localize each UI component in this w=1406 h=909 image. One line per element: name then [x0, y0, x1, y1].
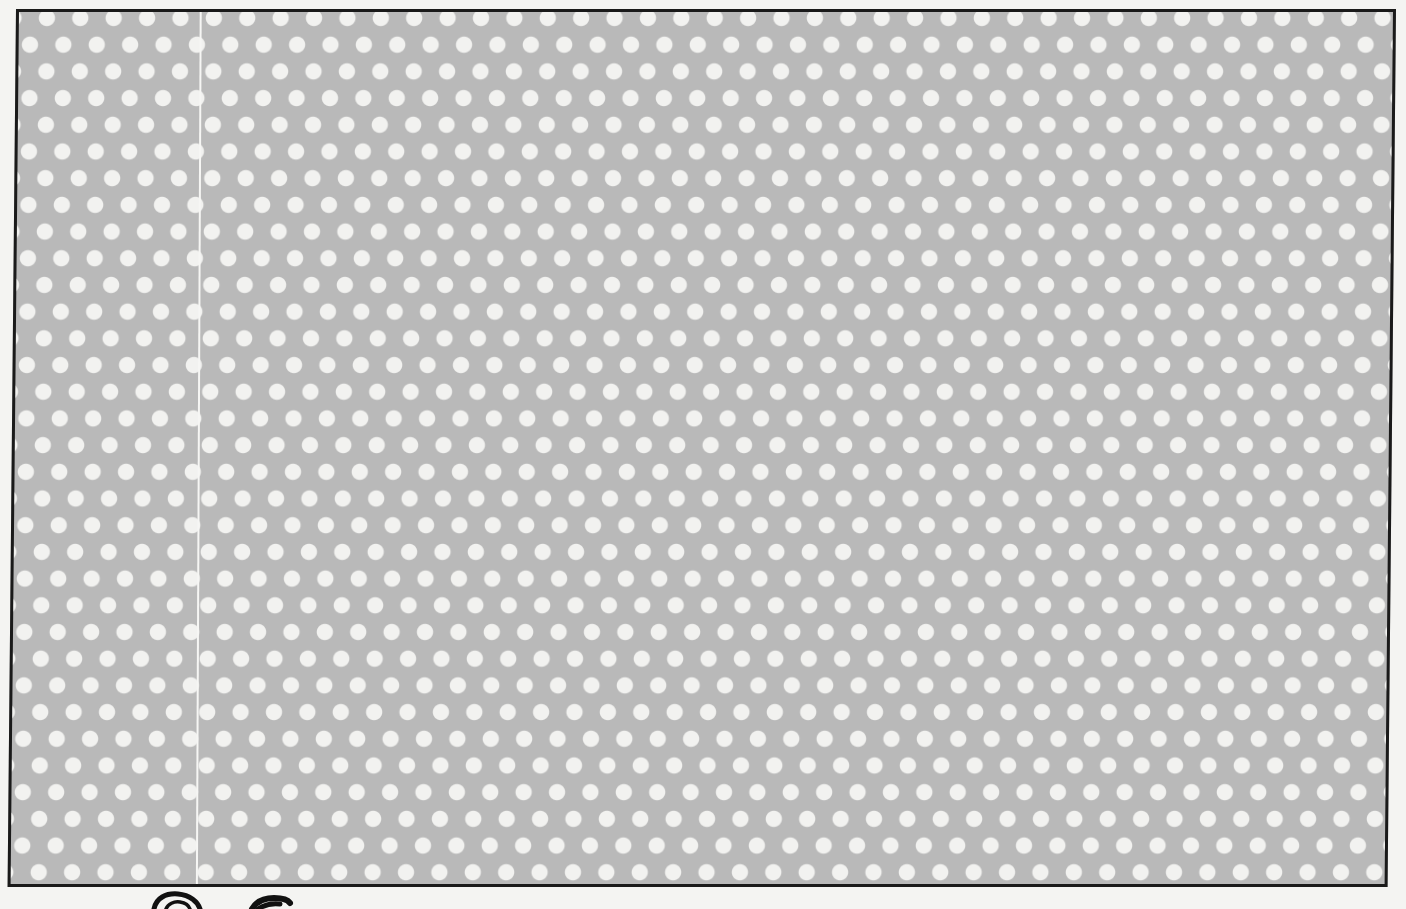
polka-dot-panel — [8, 9, 1396, 887]
drawing-strokes-icon — [140, 888, 310, 909]
partial-line-drawing — [140, 888, 310, 909]
dot-pattern — [11, 12, 1393, 884]
scanned-page — [0, 0, 1406, 909]
